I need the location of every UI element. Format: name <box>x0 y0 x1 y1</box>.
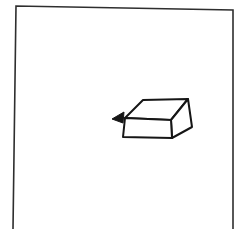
box-front-face <box>123 118 172 138</box>
corner-arrow-icon <box>112 112 124 123</box>
figure-canvas <box>0 0 243 229</box>
scanned-figure <box>0 0 243 229</box>
